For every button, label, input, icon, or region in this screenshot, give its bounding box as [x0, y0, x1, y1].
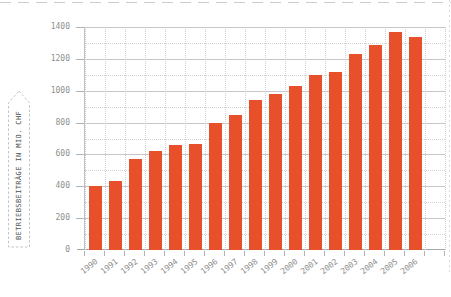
vertical-gridline-14 — [365, 27, 366, 250]
vertical-gridline-11 — [305, 27, 306, 250]
vertical-gridline-4 — [165, 27, 166, 250]
x-tick-10 — [284, 251, 285, 256]
x-tick-2 — [124, 251, 125, 256]
x-tick-13 — [344, 251, 345, 256]
y-tick-label-1000: 1000 — [30, 86, 70, 96]
vertical-gridline-17 — [425, 27, 426, 250]
y-tick-label-400: 400 — [30, 181, 70, 191]
x-tick-12 — [324, 251, 325, 256]
y-tick-label-600: 600 — [30, 149, 70, 159]
x-tick-5 — [184, 251, 185, 256]
y-tick-1000 — [76, 91, 84, 92]
vertical-gridline-9 — [265, 27, 266, 250]
vertical-gridline-18 — [445, 27, 446, 250]
vertical-gridline-10 — [285, 27, 286, 250]
x-tick-9 — [264, 251, 265, 256]
page-top-dashed-border — [0, 2, 451, 3]
page-right-dotted-border — [449, 0, 450, 272]
bar-1992 — [129, 159, 142, 250]
vertical-gridline-13 — [345, 27, 346, 250]
vertical-gridline-8 — [245, 27, 246, 250]
x-tick-7 — [224, 251, 225, 256]
vertical-gridline-16 — [405, 27, 406, 250]
y-tick-label-0: 0 — [30, 245, 70, 255]
y-tick-label-1400: 1400 — [30, 22, 70, 32]
x-tick-6 — [204, 251, 205, 256]
bar-2005 — [389, 32, 402, 250]
betriebsbeitraege-bar-chart: BETRIEBSBEITRÄGE IN MIO. CHF 02004006008… — [0, 0, 451, 297]
x-tick-0 — [84, 251, 85, 256]
vertical-gridline-6 — [205, 27, 206, 250]
x-tick-3 — [144, 251, 145, 256]
x-tick-16 — [404, 251, 405, 256]
vertical-gridline-5 — [185, 27, 186, 250]
vertical-gridline-1 — [105, 27, 106, 250]
x-tick-4 — [164, 251, 165, 256]
vertical-gridline-15 — [385, 27, 386, 250]
bar-2006 — [409, 37, 422, 250]
bar-1996 — [209, 123, 222, 250]
vertical-gridline-7 — [225, 27, 226, 250]
bar-1994 — [169, 145, 182, 250]
y-tick-label-800: 800 — [30, 118, 70, 128]
x-tick-17 — [424, 251, 425, 256]
bar-2004 — [369, 45, 382, 250]
y-tick-200 — [76, 218, 84, 219]
bar-1998 — [249, 100, 262, 250]
bar-1991 — [109, 181, 122, 250]
bar-1995 — [189, 144, 202, 250]
y-tick-1400 — [76, 27, 84, 28]
y-axis-label: BETRIEBSBEITRÄGE IN MIO. CHF — [8, 105, 30, 245]
plot-area — [84, 27, 445, 250]
bar-1997 — [229, 115, 242, 250]
x-tick-18 — [444, 251, 445, 256]
vertical-gridline-2 — [125, 27, 126, 250]
bar-1999 — [269, 94, 282, 250]
x-tick-1 — [104, 251, 105, 256]
x-tick-11 — [304, 251, 305, 256]
bar-2001 — [309, 75, 322, 250]
bar-2000 — [289, 86, 302, 250]
y-tick-label-1200: 1200 — [30, 54, 70, 64]
y-tick-400 — [76, 186, 84, 187]
vertical-gridline-12 — [325, 27, 326, 250]
x-tick-15 — [384, 251, 385, 256]
bar-2002 — [329, 72, 342, 250]
y-tick-label-200: 200 — [30, 213, 70, 223]
x-tick-14 — [364, 251, 365, 256]
vertical-gridline-3 — [145, 27, 146, 250]
vertical-gridline-0 — [85, 27, 86, 250]
bar-1993 — [149, 151, 162, 250]
y-tick-1200 — [76, 59, 84, 60]
bar-2003 — [349, 54, 362, 250]
x-tick-8 — [244, 251, 245, 256]
y-tick-600 — [76, 154, 84, 155]
y-tick-800 — [76, 123, 84, 124]
bar-1990 — [89, 186, 102, 250]
